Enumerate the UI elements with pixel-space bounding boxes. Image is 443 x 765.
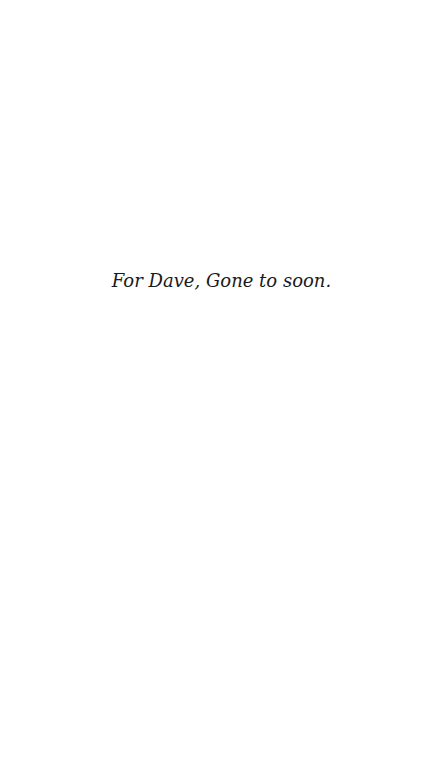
dedication-text: For Dave, Gone to soon.	[0, 268, 443, 294]
book-page: For Dave, Gone to soon.	[0, 0, 443, 765]
